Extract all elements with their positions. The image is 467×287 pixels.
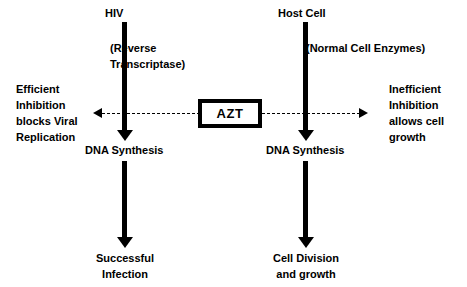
cell-division-line1: Cell Division bbox=[253, 250, 359, 266]
efficient-inhibition-line1: Efficient bbox=[16, 81, 78, 97]
cell-division-outcome: Cell Division and growth bbox=[253, 250, 359, 282]
inefficient-inhibition-line3: allows cell bbox=[389, 113, 444, 129]
hiv-upper-arrow-shaft bbox=[122, 22, 127, 132]
inefficient-inhibition-line2: Inhibition bbox=[389, 97, 444, 113]
azt-drug-box[interactable]: AZT bbox=[198, 99, 262, 128]
successful-infection-outcome: Successful Infection bbox=[75, 250, 175, 282]
inefficient-inhibition-text-block: Inefficient Inhibition allows cell growt… bbox=[389, 81, 444, 145]
azt-mechanism-diagram: HIV (Reverse Transcriptase) DNA Synthesi… bbox=[0, 0, 467, 287]
inefficient-inhibition-line4: growth bbox=[389, 129, 444, 145]
azt-label: AZT bbox=[217, 106, 244, 121]
hiv-lower-arrow-head bbox=[117, 237, 133, 248]
host-cell-lower-arrow-shaft bbox=[303, 161, 308, 239]
host-cell-dna-synthesis-label: DNA Synthesis bbox=[266, 143, 344, 157]
azt-to-hiv-arrow-head bbox=[93, 108, 102, 118]
reverse-transcriptase-label-line1: (Reverse bbox=[110, 41, 156, 55]
host-cell-lower-arrow-head bbox=[298, 237, 314, 248]
normal-cell-enzymes-label: (Normal Cell Enzymes) bbox=[306, 41, 425, 55]
azt-to-hiv-dashed-line bbox=[102, 113, 200, 114]
efficient-inhibition-line4: Replication bbox=[16, 129, 78, 145]
successful-infection-line2: Infection bbox=[75, 266, 175, 282]
hiv-dna-synthesis-label: DNA Synthesis bbox=[85, 143, 163, 157]
hiv-upper-arrow-head bbox=[117, 130, 133, 141]
azt-to-host-cell-dashed-line bbox=[262, 113, 360, 114]
efficient-inhibition-line2: Inhibition bbox=[16, 97, 78, 113]
reverse-transcriptase-label-line2: Transcriptase) bbox=[110, 57, 185, 71]
host-cell-source-label: Host Cell bbox=[278, 6, 326, 20]
host-cell-upper-arrow-shaft bbox=[303, 22, 308, 132]
host-cell-upper-arrow-head bbox=[298, 130, 314, 141]
efficient-inhibition-line3: blocks Viral bbox=[16, 113, 78, 129]
hiv-source-label: HIV bbox=[105, 6, 123, 20]
efficient-inhibition-text-block: Efficient Inhibition blocks Viral Replic… bbox=[16, 81, 78, 145]
cell-division-line2: and growth bbox=[253, 266, 359, 282]
hiv-lower-arrow-shaft bbox=[122, 161, 127, 239]
successful-infection-line1: Successful bbox=[75, 250, 175, 266]
inefficient-inhibition-line1: Inefficient bbox=[389, 81, 444, 97]
azt-to-host-cell-arrow-head bbox=[359, 108, 368, 118]
